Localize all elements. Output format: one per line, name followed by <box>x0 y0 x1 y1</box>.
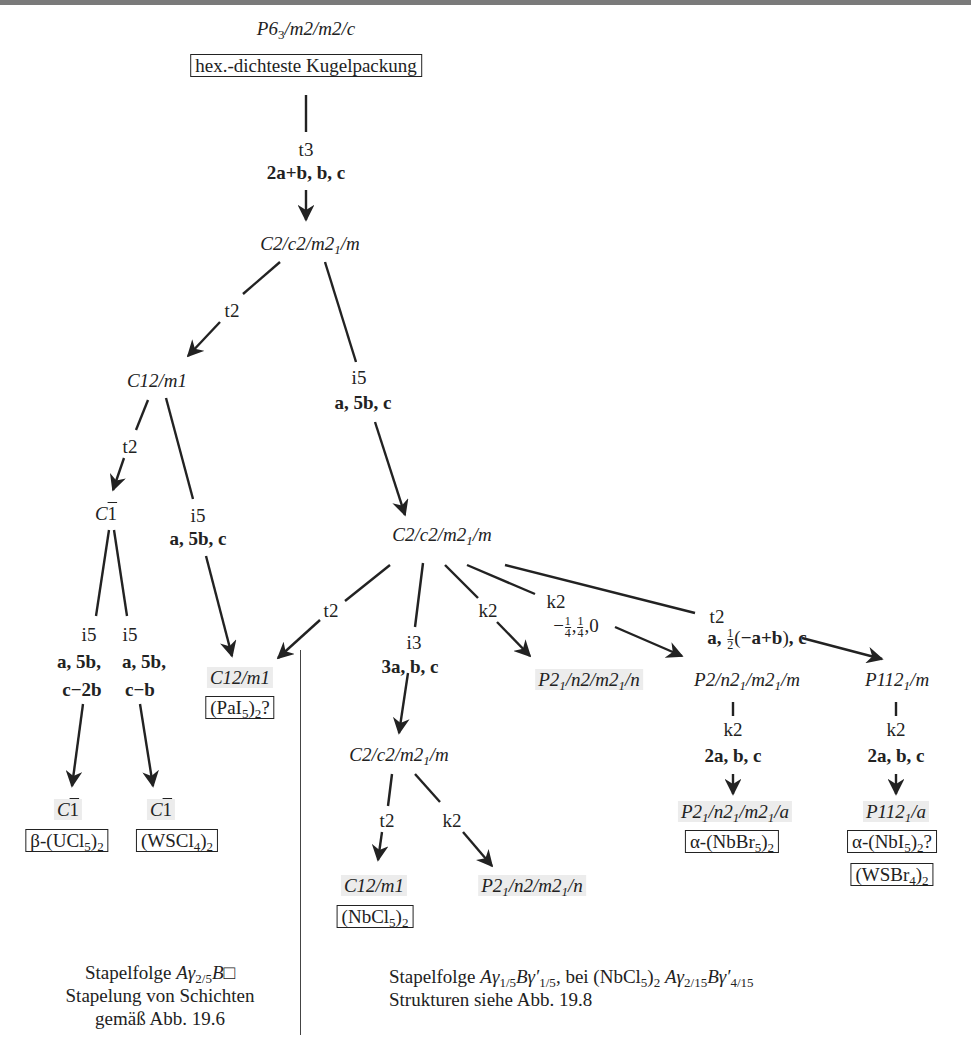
edge-n1-n4-transform: a, 5b, c <box>335 392 392 414</box>
edge-n2-n6-transform: a, 5b, c <box>170 528 227 550</box>
edge-n2-n3-lower <box>113 458 124 490</box>
caption-left-line1: Stapelfolge Aγ2/5B□ <box>50 961 270 984</box>
caption-right-line1: Stapelfolge Aγ1/5Bγ′1/5, bei (NbCl5)2 Aγ… <box>389 965 754 988</box>
edge-n3-right-upper <box>114 530 127 616</box>
edge-n4-n6-upper <box>345 565 390 601</box>
edge-n1-n4-upper <box>325 262 356 362</box>
edge-n3-left-upper <box>96 530 109 616</box>
caption-left-line3: gemäß Abb. 19.6 <box>50 1007 270 1030</box>
node-n6-compound: (PaI5)2? <box>205 697 274 719</box>
edge-n1-n2-upper <box>243 262 280 294</box>
edge-n10-n14-type: k2 <box>887 719 906 741</box>
edge-root-n1-transform: 2a+b, b, c <box>267 162 345 184</box>
node-n14-compound-1: α-(NbI5)2? <box>847 831 937 853</box>
section-divider <box>300 650 301 1035</box>
node-n7-spacegroup: C2/c2/m21/m <box>349 744 448 766</box>
edge-n4-n7-lower <box>399 673 408 733</box>
edge-n4-n10-type: t2 <box>710 606 725 628</box>
caption-left: Stapelfolge Aγ2/5B□ Stapelung von Schich… <box>50 961 270 1030</box>
edge-n1-n4-lower <box>375 422 405 515</box>
node-n13-spacegroup: P21/n21/m21/a <box>678 801 792 823</box>
edge-n3-right-type: i5 <box>123 624 138 646</box>
edge-n4-n9-origin: −14,14,0 <box>553 615 599 639</box>
node-n5-right-compound: (WSCl4)2 <box>136 830 218 852</box>
edge-n2-n6-lower <box>206 556 232 656</box>
node-root-label: hex.-dichteste Kugelpackung <box>190 55 422 77</box>
edge-n3-left-transform-1: a, 5b, <box>57 651 101 673</box>
node-n13-compound: α-(NbBr5)2 <box>685 831 779 853</box>
node-n11-compound: (NbCl5)2 <box>337 906 414 928</box>
edge-n4-n7-upper <box>415 563 423 627</box>
caption-left-line2: Stapelung von Schichten <box>50 984 270 1007</box>
node-n9-spacegroup: P2/n21/m21/m <box>694 669 800 691</box>
node-n14-compound-2: (WSBr4)2 <box>850 864 933 886</box>
edge-n4-n7-transform: 3a, b, c <box>382 656 439 678</box>
node-n6-spacegroup: C12/m1 <box>207 667 273 689</box>
caption-right-line2: Strukturen siehe Abb. 19.8 <box>389 988 754 1011</box>
node-n5-left-spacegroup: C1 <box>54 799 82 821</box>
node-n10-spacegroup: P1121/m <box>865 669 929 691</box>
caption-right: Stapelfolge Aγ1/5Bγ′1/5, bei (NbCl5)2 Aγ… <box>389 965 754 1011</box>
edge-n9-n13-type: k2 <box>724 719 743 741</box>
edge-n1-n2-lower <box>188 322 220 356</box>
edge-n4-n7-type: i3 <box>407 632 422 654</box>
node-n3-spacegroup: C1 <box>95 503 117 525</box>
node-n4-spacegroup: C2/c2/m21/m <box>392 524 491 546</box>
edge-n4-n9-lower <box>615 627 682 656</box>
node-n14-spacegroup: P1121/a <box>863 801 929 823</box>
edge-n7-n12-upper <box>415 774 440 802</box>
edge-n3-right-lower <box>140 704 153 786</box>
node-n5-left-compound: β-(UCl5)2 <box>25 830 108 852</box>
edge-n2-n3-type: t2 <box>123 436 138 458</box>
edge-root-n1-type: t3 <box>299 139 314 161</box>
edge-n4-n10-upper <box>505 565 695 613</box>
edge-n4-n6-type: t2 <box>324 600 339 622</box>
edge-n10-n14-transform: 2a, b, c <box>868 745 925 767</box>
node-n1-spacegroup: C2/c2/m21/m <box>260 233 359 255</box>
node-n5-right-spacegroup: C1 <box>147 799 175 821</box>
node-n11-spacegroup: C12/m1 <box>341 875 407 897</box>
edge-n4-n8-type: k2 <box>479 600 498 622</box>
edge-n3-left-lower <box>72 704 83 786</box>
edge-n4-n8-lower <box>497 622 530 656</box>
edge-n7-n12-lower <box>463 832 492 866</box>
edge-n7-n11-type: t2 <box>380 810 395 832</box>
edge-n3-right-transform-2: c−b <box>125 679 155 701</box>
edge-n3-left-type: i5 <box>82 624 97 646</box>
edge-n1-n4-type: i5 <box>352 367 367 389</box>
node-n12-spacegroup: P21/n2/m21/n <box>478 875 586 897</box>
edge-n4-n10-lower <box>802 638 882 659</box>
edge-n4-n8-upper <box>445 565 478 598</box>
node-root-spacegroup: P63/m2/m2/c <box>257 18 355 40</box>
edge-n3-left-transform-2: c−2b <box>62 679 101 701</box>
edge-n2-n3-upper <box>136 400 148 430</box>
edge-n2-n6-upper <box>166 398 193 499</box>
edge-n1-n2-type: t2 <box>225 300 240 322</box>
edge-n2-n6-type: i5 <box>191 505 206 527</box>
edge-n7-n11-upper <box>388 774 392 806</box>
edge-n4-n9-type: k2 <box>547 591 566 613</box>
node-n2-spacegroup: C12/m1 <box>127 370 187 392</box>
edge-n9-n13-transform: 2a, b, c <box>705 745 762 767</box>
edge-n3-right-transform-1: a, 5b, <box>122 651 166 673</box>
edge-n4-n6-lower <box>278 620 320 658</box>
edge-n4-n10-transform: a, 12(−a+b), c <box>707 627 806 651</box>
edge-n7-n12-type: k2 <box>443 810 462 832</box>
node-n8-spacegroup: P21/n2/m21/n <box>535 669 643 691</box>
edge-n7-n11-lower <box>378 832 382 860</box>
